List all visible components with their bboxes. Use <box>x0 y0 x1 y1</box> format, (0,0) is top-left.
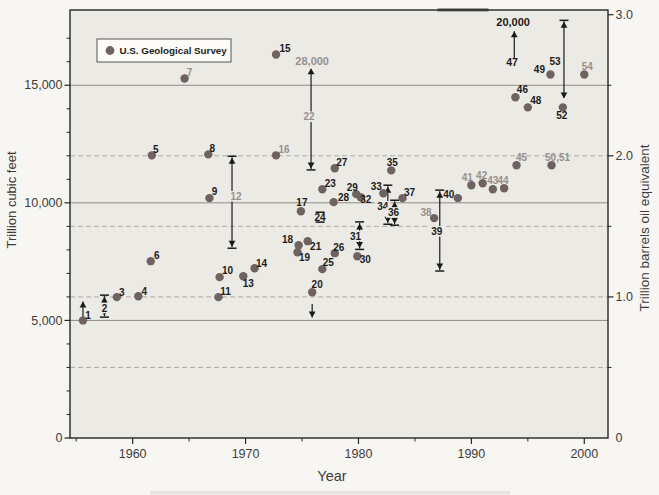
point-label-35: 35 <box>387 157 399 168</box>
data-point-18 <box>294 241 302 249</box>
point-label-48: 48 <box>530 95 542 106</box>
point-label-13: 13 <box>243 278 255 289</box>
point-label-10: 10 <box>222 265 234 276</box>
point-label-21: 21 <box>310 241 322 252</box>
right-axis-tick-label: 0 <box>616 431 623 445</box>
point-label-9: 9 <box>212 186 218 197</box>
plot-area <box>70 10 608 438</box>
point-label-49: 49 <box>534 64 546 75</box>
point-label-46: 46 <box>517 84 529 95</box>
point-label-23: 23 <box>325 178 337 189</box>
point-label-41: 41 <box>462 172 474 183</box>
point-label-14: 14 <box>256 258 268 269</box>
point-label-52: 52 <box>556 110 568 121</box>
point-label-25: 25 <box>323 257 335 268</box>
point-label-4: 4 <box>142 286 148 297</box>
data-point-17 <box>297 207 305 215</box>
point-label-28: 28 <box>338 192 350 203</box>
point-label-11: 11 <box>220 286 231 297</box>
annotation-text: 47 <box>506 56 518 68</box>
point-label-27: 27 <box>336 157 348 168</box>
left-axis-tick-label: 0 <box>56 431 63 445</box>
annotation-text: 28,000 <box>295 55 329 67</box>
range-label: 53 <box>549 56 561 67</box>
point-label-18: 18 <box>282 234 294 245</box>
point-label-44: 44 <box>498 175 510 186</box>
point-label-30: 30 <box>360 254 372 265</box>
data-point-49 <box>546 70 554 78</box>
point-label-8: 8 <box>210 143 216 154</box>
legend-label: U.S. Geological Survey <box>120 45 228 56</box>
point-label-42: 42 <box>476 170 488 181</box>
point-label-40: 40 <box>443 189 455 200</box>
range-label: 24 <box>315 212 327 223</box>
point-label-1: 1 <box>85 310 91 321</box>
point-label-29: 29 <box>347 182 359 193</box>
point-label-32: 32 <box>360 194 372 205</box>
figure-page: 05,00010,00015,0001960197019801990200001… <box>0 0 659 495</box>
range-label: 36 <box>388 207 400 218</box>
data-point-28 <box>329 198 337 206</box>
point-label-26: 26 <box>333 242 345 253</box>
x-axis-title: Year <box>317 468 346 484</box>
left-axis-title: Trillion cubic feet <box>4 151 19 248</box>
point-label-3: 3 <box>119 287 125 298</box>
x-axis-tick-label: 1960 <box>119 447 147 461</box>
point-label-16: 16 <box>278 144 290 155</box>
point-label-19: 19 <box>299 252 311 263</box>
point-label-20: 20 <box>312 279 324 290</box>
data-point-43 <box>489 185 497 193</box>
range-label: 22 <box>303 111 315 122</box>
x-axis-tick-label: 1980 <box>345 447 373 461</box>
range-label: 31 <box>350 231 362 242</box>
data-point-40 <box>454 194 462 202</box>
scan-smudge-bottom <box>150 491 510 495</box>
point-label-38: 38 <box>421 207 433 218</box>
legend: U.S. Geological Survey <box>97 39 231 62</box>
point-label-37: 37 <box>404 187 416 198</box>
range-label: 2 <box>102 303 108 314</box>
range-label: 12 <box>230 191 242 202</box>
right-axis-title: Trillion barrels oil equivalent <box>637 144 652 311</box>
point-label-15: 15 <box>279 43 291 54</box>
right-axis-tick-label: 1.0 <box>616 290 633 304</box>
legend-dot-icon <box>106 46 115 55</box>
scan-smudge-top <box>437 8 489 11</box>
right-axis-tick-label: 3.0 <box>616 8 633 22</box>
gas-estimates-scatter-chart: 05,00010,00015,0001960197019801990200001… <box>0 0 659 495</box>
point-label-54: 54 <box>582 61 594 72</box>
point-label-5: 5 <box>153 144 159 155</box>
left-axis-tick-label: 15,000 <box>24 78 62 92</box>
point-label-17: 17 <box>296 197 308 208</box>
left-axis-tick-label: 10,000 <box>24 196 62 210</box>
point-label-6: 6 <box>154 250 160 261</box>
point-label-33: 33 <box>371 181 383 192</box>
x-axis-tick-label: 1990 <box>457 447 485 461</box>
annotation-text: 20,000 <box>496 16 530 28</box>
point-label-45: 45 <box>516 152 528 163</box>
point-label-7: 7 <box>187 67 193 78</box>
left-axis-tick-label: 5,000 <box>31 314 62 328</box>
x-axis-tick-label: 2000 <box>570 447 598 461</box>
range-label: 39 <box>431 226 443 237</box>
right-axis-tick-label: 2.0 <box>616 149 633 163</box>
point-label-50,51: 50,51 <box>545 152 570 163</box>
x-axis-tick-label: 1970 <box>232 447 260 461</box>
